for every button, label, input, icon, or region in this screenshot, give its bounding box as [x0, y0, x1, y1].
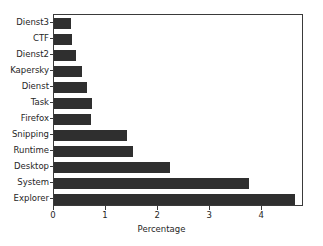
bar-row: [54, 175, 304, 191]
y-tick-mark: [50, 38, 54, 39]
x-tick-label-2: 2: [154, 210, 159, 220]
bar-chart-figure: Dienst3CTFDienst2KaperskyDienstTaskFiref…: [0, 0, 323, 246]
bar-row: [54, 143, 304, 159]
y-tick-mark: [50, 22, 54, 23]
bar-row: [54, 47, 304, 63]
x-axis-label: Percentage: [0, 224, 323, 234]
bar-row: [54, 79, 304, 95]
y-tick-mark: [50, 134, 54, 135]
x-tick-mark: [261, 206, 262, 210]
y-tick-label-desktop: Desktop: [0, 158, 49, 174]
plot-area: [53, 14, 303, 206]
bar-kapersky: [54, 66, 82, 77]
bar-dienst3: [54, 18, 71, 29]
bar-snipping: [54, 130, 127, 141]
bar-row: [54, 111, 304, 127]
y-tick-label-dienst: Dienst: [0, 78, 49, 94]
y-tick-mark: [50, 118, 54, 119]
y-tick-mark: [50, 86, 54, 87]
bar-row: [54, 95, 304, 111]
bar-explorer: [54, 194, 295, 205]
y-tick-label-kapersky: Kapersky: [0, 62, 49, 78]
y-tick-label-system: System: [0, 174, 49, 190]
x-tick-mark: [105, 206, 106, 210]
bar-runtime: [54, 146, 133, 157]
x-tick-label-1: 1: [102, 210, 107, 220]
x-tick-mark: [209, 206, 210, 210]
y-tick-mark: [50, 102, 54, 103]
bar-row: [54, 159, 304, 175]
bar-row: [54, 15, 304, 31]
y-tick-label-firefox: Firefox: [0, 110, 49, 126]
bar-dienst: [54, 82, 87, 93]
bar-row: [54, 127, 304, 143]
bar-system: [54, 178, 249, 189]
bar-ctf: [54, 34, 72, 45]
x-tick-mark: [157, 206, 158, 210]
bar-firefox: [54, 114, 91, 125]
y-tick-label-explorer: Explorer: [0, 190, 49, 206]
bar-row: [54, 31, 304, 47]
y-tick-label-dienst2: Dienst2: [0, 46, 49, 62]
y-tick-label-dienst3: Dienst3: [0, 14, 49, 30]
y-axis-tick-labels: Dienst3CTFDienst2KaperskyDienstTaskFiref…: [0, 14, 49, 206]
y-tick-mark: [50, 182, 54, 183]
x-tick-label-0: 0: [50, 210, 55, 220]
bar-row: [54, 191, 304, 207]
y-tick-mark: [50, 70, 54, 71]
y-tick-label-task: Task: [0, 94, 49, 110]
y-tick-mark: [50, 150, 54, 151]
y-tick-label-runtime: Runtime: [0, 142, 49, 158]
bar-task: [54, 98, 92, 109]
y-tick-label-ctf: CTF: [0, 30, 49, 46]
y-tick-mark: [50, 198, 54, 199]
bar-row: [54, 63, 304, 79]
y-tick-mark: [50, 54, 54, 55]
y-tick-mark: [50, 166, 54, 167]
bar-desktop: [54, 162, 170, 173]
x-tick-mark: [53, 206, 54, 210]
y-tick-label-snipping: Snipping: [0, 126, 49, 142]
x-tick-label-4: 4: [259, 210, 264, 220]
bar-dienst2: [54, 50, 76, 61]
x-tick-label-3: 3: [207, 210, 212, 220]
